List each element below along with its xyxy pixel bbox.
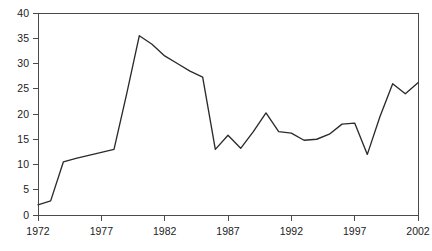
y-axis-tick-label: 40 [17, 7, 29, 19]
plot-area-background [38, 13, 418, 215]
y-axis-tick-label: 20 [17, 108, 29, 120]
x-axis-tick-label: 1982 [153, 225, 177, 237]
y-axis-tick-label: 35 [17, 32, 29, 44]
y-axis-labels: 0510152025303540 [17, 7, 29, 221]
y-axis-tick-label: 0 [23, 209, 29, 221]
y-axis-tick-label: 25 [17, 82, 29, 94]
x-axis-labels: 1972197719821987199219972002 [26, 225, 430, 237]
y-axis-ticks [33, 13, 38, 215]
chart-canvas: 0510152025303540 19721977198219871992199… [0, 0, 432, 251]
line-chart: 0510152025303540 19721977198219871992199… [0, 0, 432, 251]
x-axis-tick-label: 1997 [343, 225, 367, 237]
x-axis-tick-label: 2002 [406, 225, 430, 237]
x-axis-tick-label: 1972 [26, 225, 50, 237]
x-axis-tick-label: 1987 [216, 225, 240, 237]
x-axis-tick-label: 1977 [90, 225, 114, 237]
y-axis-tick-label: 10 [17, 158, 29, 170]
x-axis-ticks [38, 215, 418, 221]
x-axis-tick-label: 1992 [280, 225, 304, 237]
y-axis-tick-label: 15 [17, 133, 29, 145]
y-axis-tick-label: 30 [17, 57, 29, 69]
y-axis-tick-label: 5 [23, 183, 29, 195]
